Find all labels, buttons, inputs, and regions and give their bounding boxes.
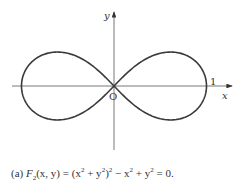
plot-canvas: [0, 0, 245, 155]
caption-term: + y: [84, 167, 101, 179]
figure-caption: (a) F2(x, y) = (x2 + y2)2 − x2 + y2 = 0.: [11, 166, 174, 182]
caption-func: F: [26, 167, 33, 179]
caption-term: + y: [133, 167, 150, 179]
caption-term: − x: [112, 167, 129, 179]
y-axis-label: y: [104, 11, 110, 21]
origin-label: O: [109, 92, 117, 102]
lemniscate-figure: y x O 1: [0, 0, 245, 155]
caption-args: (x, y) = (x: [36, 167, 81, 179]
x-intercept-label: 1: [210, 77, 216, 87]
caption-suffix: = 0.: [154, 167, 174, 179]
caption-prefix: (a): [11, 167, 26, 179]
x-axis-label: x: [222, 91, 228, 101]
